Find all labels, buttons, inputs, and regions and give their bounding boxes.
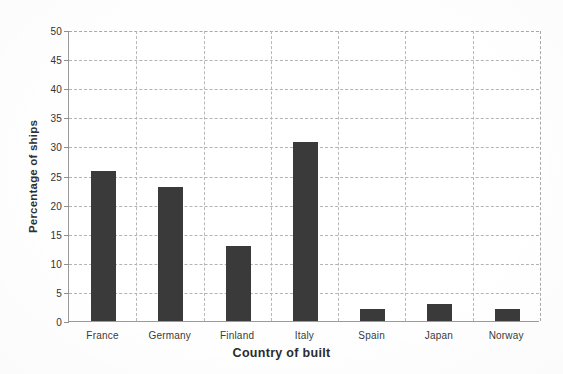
y-tick-mark [64, 118, 69, 119]
gridline-horizontal [69, 31, 539, 32]
bar-spain [360, 309, 385, 321]
y-tick-mark [64, 235, 69, 236]
bar-chart-figure: Percentage of ships 05101520253035404550… [0, 0, 563, 374]
y-tick-mark [64, 177, 69, 178]
gridline-horizontal [69, 118, 539, 119]
y-tick-label: 35 [38, 113, 62, 124]
gridline-vertical [540, 31, 541, 321]
gridline-vertical [204, 31, 205, 321]
y-tick-label: 15 [38, 229, 62, 240]
y-tick-mark [64, 60, 69, 61]
gridline-vertical [473, 31, 474, 321]
y-tick-label: 45 [38, 55, 62, 66]
gridline-vertical [405, 31, 406, 321]
gridline-vertical [136, 31, 137, 321]
y-tick-mark [64, 293, 69, 294]
y-tick-mark [64, 264, 69, 265]
y-tick-mark [64, 322, 69, 323]
gridline-horizontal [69, 60, 539, 61]
y-tick-mark [64, 89, 69, 90]
y-tick-mark [64, 147, 69, 148]
y-tick-label: 20 [38, 200, 62, 211]
y-tick-mark [64, 31, 69, 32]
x-tick-label: Norway [461, 330, 551, 341]
y-tick-label: 40 [38, 84, 62, 95]
gridline-vertical [271, 31, 272, 321]
y-tick-label: 25 [38, 171, 62, 182]
plot-area [68, 31, 539, 322]
bar-germany [158, 187, 183, 321]
y-tick-label: 50 [38, 26, 62, 37]
bar-japan [427, 304, 452, 321]
gridline-vertical [338, 31, 339, 321]
y-tick-label: 0 [38, 317, 62, 328]
bar-finland [226, 246, 251, 321]
bar-norway [495, 309, 520, 321]
bar-italy [293, 142, 318, 321]
x-axis-title: Country of built [0, 346, 563, 360]
y-tick-label: 5 [38, 287, 62, 298]
y-tick-label: 10 [38, 258, 62, 269]
y-tick-mark [64, 206, 69, 207]
bar-france [91, 171, 116, 321]
gridline-horizontal [69, 89, 539, 90]
y-tick-label: 30 [38, 142, 62, 153]
